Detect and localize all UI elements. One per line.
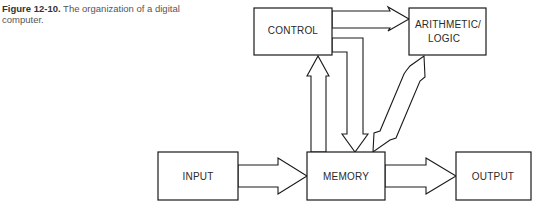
node-input: INPUT [158,152,238,200]
arrow-memory-to-alu [373,56,425,152]
node-arithmetic-logic: ARITHMETIC/ LOGIC [409,8,486,55]
node-control-label: CONTROL [268,25,319,36]
arrow-control-to-memory [332,38,368,152]
node-output: OUTPUT [456,152,531,200]
node-output-label: OUTPUT [472,171,514,182]
arrow-memory-to-output [385,158,456,194]
node-memory-label: MEMORY [323,171,369,182]
computer-organization-diagram: CONTROL ARITHMETIC/ LOGIC INPUT MEMORY O… [0,0,541,215]
node-memory: MEMORY [307,152,385,200]
arrow-control-to-alu [332,7,409,31]
node-alu-label-line1: ARITHMETIC/ [415,19,481,30]
node-control: CONTROL [254,8,332,55]
arrow-memory-to-control [307,56,329,152]
arrow-input-to-memory [238,158,307,194]
node-input-label: INPUT [183,171,214,182]
node-alu-label-line2: LOGIC [428,33,460,44]
